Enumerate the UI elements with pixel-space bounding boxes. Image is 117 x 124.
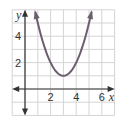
- x-axis-arrow-left-icon: [12, 86, 19, 92]
- x-tick-label: 4: [73, 91, 79, 103]
- curve-arrow-left-icon: [34, 10, 40, 19]
- x-tick-label: 2: [48, 91, 54, 103]
- y-axis-arrow-up-icon: [22, 10, 28, 17]
- parabola-graph: 24624 x y: [0, 0, 117, 124]
- y-axis-arrow-down-icon: [22, 108, 28, 115]
- y-tick-label: 2: [15, 57, 21, 69]
- x-axis-label: x: [108, 90, 115, 104]
- tick-labels: 24624: [15, 30, 105, 103]
- curve-arrow-right-icon: [87, 10, 93, 19]
- y-axis-label: y: [15, 8, 22, 22]
- y-tick-label: 4: [15, 30, 21, 42]
- x-tick-label: 6: [99, 91, 105, 103]
